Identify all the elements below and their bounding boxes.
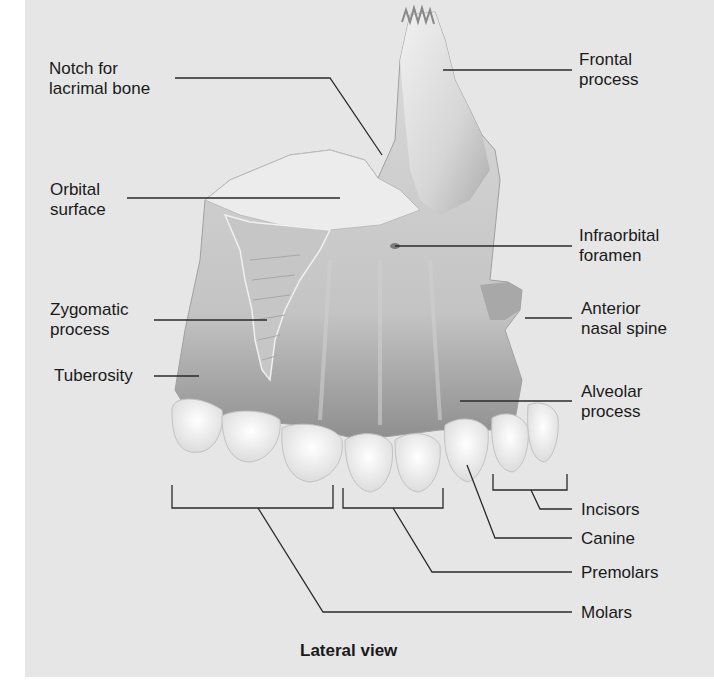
label-orbital-surface: Orbital surface	[50, 180, 106, 220]
maxilla-illustration	[0, 0, 714, 696]
figure-caption: Lateral view	[300, 641, 397, 661]
molar-tooth-3	[172, 399, 223, 452]
premolar-tooth-1	[395, 434, 440, 492]
label-molars: Molars	[581, 603, 632, 623]
label-frontal-process: Frontal process	[579, 50, 639, 90]
label-zygomatic-process: Zygomatic process	[50, 300, 128, 340]
premolar-tooth-2	[345, 434, 393, 492]
label-infraorbital-foramen: Infraorbital foramen	[579, 226, 659, 266]
bracket-incisors	[493, 474, 567, 490]
molar-tooth-1	[282, 424, 343, 482]
label-tuberosity: Tuberosity	[54, 366, 133, 386]
label-canine: Canine	[581, 529, 635, 549]
leader-molars	[258, 508, 572, 612]
leader-canine	[467, 465, 572, 538]
incisor-lateral	[492, 414, 529, 472]
label-notch-lacrimal: Notch for lacrimal bone	[49, 59, 150, 99]
label-incisors: Incisors	[581, 500, 640, 520]
incisor-central	[528, 403, 559, 462]
maxilla-bone	[175, 8, 522, 440]
canine-tooth	[444, 419, 488, 482]
label-alveolar-process: Alveolar process	[581, 382, 642, 422]
leader-premolars	[393, 508, 572, 572]
bracket-molars	[172, 485, 333, 508]
molar-tooth-2	[222, 411, 280, 462]
label-premolars: Premolars	[581, 563, 658, 583]
leader-incisors	[531, 490, 572, 509]
leader-notch-lacrimal	[175, 78, 382, 155]
bracket-premolars	[343, 488, 443, 508]
label-anterior-nasal-spine: Anterior nasal spine	[581, 299, 667, 339]
